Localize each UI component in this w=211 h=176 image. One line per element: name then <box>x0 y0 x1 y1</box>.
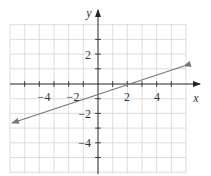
y-axis-label: y <box>85 6 92 20</box>
x-tick-label: −4 <box>38 90 51 104</box>
x-tick-label: −2 <box>67 90 80 104</box>
y-tick-label: −2 <box>78 107 91 121</box>
x-axis-label: x <box>192 91 199 105</box>
y-tick-label: −4 <box>78 136 91 150</box>
y-tick-label: 2 <box>85 48 91 62</box>
coordinate-plane: −4 −2 2 4 2 −2 −4 x y <box>0 0 211 176</box>
x-tick-label: 2 <box>124 90 130 104</box>
x-tick-label: 4 <box>154 90 160 104</box>
